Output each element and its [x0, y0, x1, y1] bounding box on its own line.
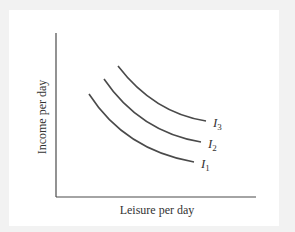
- indifference-curve-diagram: I3 I2 I1 Leisure per day Income per day: [0, 0, 295, 232]
- label-i3: I3: [212, 115, 222, 132]
- curve-i3: [118, 66, 206, 121]
- x-axis-label: Leisure per day: [120, 203, 195, 217]
- label-i1: I1: [200, 156, 210, 173]
- label-i2: I2: [207, 136, 217, 153]
- curve-i2: [104, 79, 201, 142]
- curve-i1: [89, 94, 194, 162]
- y-axis-label: Income per day: [35, 80, 49, 155]
